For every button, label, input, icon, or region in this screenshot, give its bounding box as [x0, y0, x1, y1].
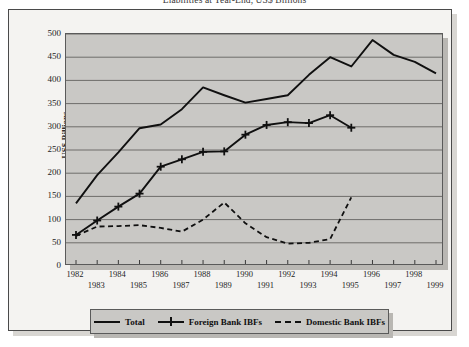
- x-axis-tick-label: 1993: [299, 280, 316, 290]
- series-line-total: [76, 40, 436, 203]
- data-point-marker: [284, 118, 292, 126]
- y-axis-tick-label: 50: [27, 237, 61, 247]
- x-axis-tick-label: 1985: [130, 280, 147, 290]
- y-axis-tick-label: 450: [27, 51, 61, 61]
- data-point-marker: [347, 124, 355, 132]
- data-point-marker: [263, 121, 271, 129]
- y-axis-tick-label: 150: [27, 190, 61, 200]
- y-axis-tick-label: 400: [27, 74, 61, 84]
- x-axis-tick-label: 1998: [405, 269, 422, 279]
- data-point-marker: [199, 148, 207, 156]
- legend-item[interactable]: Total: [94, 316, 145, 327]
- legend-item[interactable]: Foreign Bank IBFs: [158, 316, 262, 327]
- y-axis-tick-label: 0: [27, 260, 61, 270]
- plot-area: [65, 33, 443, 265]
- x-axis-tick-label: 1999: [427, 280, 444, 290]
- dashed-line-icon: [275, 316, 301, 327]
- chart-card: US$ Billions 500450400350300250200150100…: [8, 9, 452, 331]
- plus-marker-line-icon: [158, 316, 184, 327]
- x-axis-tick-label: 1991: [257, 280, 274, 290]
- x-axis-tick-label: 1992: [278, 269, 295, 279]
- x-axis-tick-label: 1988: [194, 269, 211, 279]
- chart-title: Liabilities at Year-End, US$ Billions: [0, 0, 469, 5]
- x-axis-tick-labels: 1982198319841985198619871988198919901991…: [65, 268, 443, 294]
- x-axis-tick-label: 1995: [342, 280, 359, 290]
- x-axis-tick-label: 1997: [384, 280, 401, 290]
- x-axis-tick-label: 1982: [67, 269, 84, 279]
- data-point-marker: [326, 111, 334, 119]
- x-axis-tick-label: 1984: [109, 269, 126, 279]
- legend-label: Total: [125, 317, 145, 327]
- y-axis-tick-labels: 500450400350300250200150100500: [23, 33, 61, 265]
- y-axis-tick-label: 500: [27, 28, 61, 38]
- legend-label: Foreign Bank IBFs: [189, 317, 262, 327]
- x-axis-tick-label: 1994: [321, 269, 338, 279]
- series-line-foreign-bank-ibfs: [76, 115, 351, 235]
- x-axis-tick-label: 1983: [88, 280, 105, 290]
- y-axis-tick-label: 350: [27, 98, 61, 108]
- chart-legend: TotalForeign Bank IBFsDomestic Bank IBFs: [90, 309, 389, 334]
- chart-svg: [66, 34, 443, 265]
- y-axis-tick-label: 300: [27, 121, 61, 131]
- data-point-marker: [305, 119, 313, 127]
- y-axis-tick-label: 200: [27, 167, 61, 177]
- x-axis-tick-label: 1986: [151, 269, 168, 279]
- solid-line-icon: [94, 316, 120, 327]
- x-axis-tick-label: 1996: [363, 269, 380, 279]
- legend-label: Domestic Bank IBFs: [306, 317, 385, 327]
- data-point-marker: [178, 155, 186, 163]
- x-axis-tick-label: 1990: [236, 269, 253, 279]
- plot-wrapper: [65, 33, 443, 265]
- y-axis-tick-label: 250: [27, 144, 61, 154]
- x-axis-tick-label: 1989: [215, 280, 232, 290]
- x-axis-tick-label: 1987: [172, 280, 189, 290]
- y-axis-tick-label: 100: [27, 214, 61, 224]
- legend-item[interactable]: Domestic Bank IBFs: [275, 316, 385, 327]
- series-line-domestic-bank-ibfs: [76, 197, 351, 243]
